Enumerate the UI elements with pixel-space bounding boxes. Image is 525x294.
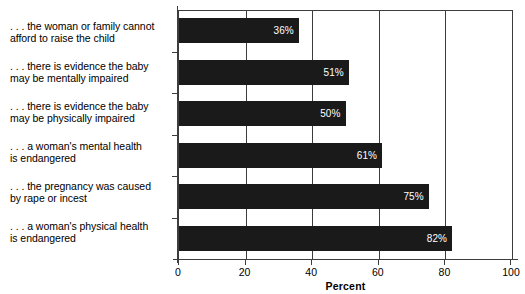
category-label: . . . the pregnancy was caused by rape o…	[10, 180, 176, 205]
bar-value-label: 50%	[320, 108, 340, 119]
x-axis-ticklabel: 80	[439, 266, 451, 278]
category-label-line: by rape or incest	[10, 192, 176, 204]
category-label: . . . there is evidence the baby may be …	[10, 60, 176, 85]
bar: 51%	[179, 60, 349, 85]
bar-chart: . . . the woman or family cannot afford …	[0, 0, 525, 294]
category-label-line: is endangered	[10, 152, 176, 164]
category-label-line: . . . the pregnancy was caused	[10, 180, 176, 192]
x-axis-tick	[510, 259, 511, 265]
x-axis-tick	[178, 259, 179, 265]
category-label-column: . . . the woman or family cannot afford …	[0, 10, 178, 259]
category-label-line: may be mentally impaired	[10, 72, 176, 84]
category-label: . . . there is evidence the baby may be …	[10, 100, 176, 125]
plot-area: 36% 51% 50% 61% 75% 82%	[178, 10, 513, 259]
x-axis-ticks	[178, 259, 513, 265]
bar: 50%	[179, 101, 346, 126]
category-label-line: is endangered	[10, 232, 176, 244]
x-axis-tick	[245, 259, 246, 265]
bar-value-label: 36%	[274, 25, 294, 36]
x-axis-ticklabel: 20	[239, 266, 251, 278]
bar-value-label: 51%	[324, 67, 344, 78]
bar: 82%	[179, 226, 452, 251]
category-label: . . . a woman's mental health is endange…	[10, 140, 176, 165]
category-label-line: afford to raise the child	[10, 32, 176, 44]
category-label-line: . . . the woman or family cannot	[10, 20, 176, 32]
x-axis-ticklabel: 0	[175, 266, 181, 278]
bar-value-label: 61%	[357, 150, 377, 161]
bar-value-label: 82%	[427, 233, 447, 244]
x-axis-ticklabels: 0 20 40 60 80 100	[178, 266, 513, 280]
x-axis-title: Percent	[178, 280, 513, 292]
bar: 75%	[179, 184, 429, 209]
x-axis-ticklabel: 100	[502, 266, 520, 278]
bar: 61%	[179, 143, 382, 168]
category-label: . . . the woman or family cannot afford …	[10, 20, 176, 45]
category-label-line: . . . a woman's mental health	[10, 140, 176, 152]
category-label-line: . . . there is evidence the baby	[10, 100, 176, 112]
category-label-line: . . . there is evidence the baby	[10, 60, 176, 72]
x-axis-tick	[311, 259, 312, 265]
category-label-line: . . . a woman's physical health	[10, 220, 176, 232]
bars-group: 36% 51% 50% 61% 75% 82%	[179, 11, 512, 259]
x-axis-ticklabel: 60	[372, 266, 384, 278]
bar: 36%	[179, 18, 299, 43]
category-label-line: may be physically impaired	[10, 112, 176, 124]
bar-value-label: 75%	[403, 191, 423, 202]
x-axis-tick	[378, 259, 379, 265]
x-axis-ticklabel: 40	[305, 266, 317, 278]
x-axis-tick	[444, 259, 445, 265]
category-label: . . . a woman's physical health is endan…	[10, 220, 176, 245]
